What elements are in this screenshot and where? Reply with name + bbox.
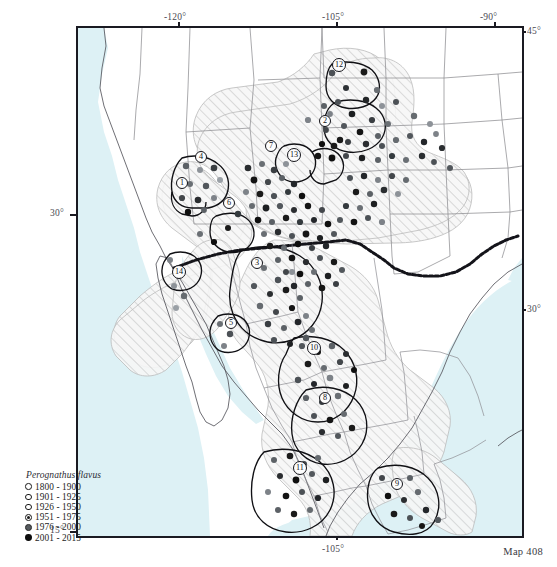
legend-rows: 1800 - 19001901 - 19251926 - 19501951 - … bbox=[22, 482, 172, 543]
region-marker-11: 11 bbox=[293, 461, 307, 475]
legend-item-label: 1951 - 1975 bbox=[35, 512, 81, 522]
legend-item-label: 1800 - 1900 bbox=[35, 482, 81, 492]
legend-symbol-icon bbox=[22, 534, 35, 541]
graticule-right-label-1: 30° bbox=[527, 304, 541, 314]
distribution-map-figure: -120°-105°-90°-105°30°15°45°30° bbox=[0, 0, 557, 567]
legend-item-label: 1901 - 1925 bbox=[35, 492, 81, 502]
graticule-bottom-label-0: -105° bbox=[322, 544, 344, 554]
region-marker-13: 13 bbox=[287, 148, 301, 162]
black-filled-circle-icon bbox=[25, 534, 32, 541]
graticule-left-label-0: 30° bbox=[50, 208, 64, 218]
legend-item: 1926 - 1950 bbox=[22, 502, 172, 512]
graticule-top-label-0: -120° bbox=[164, 12, 186, 22]
legend-item-label: 2001 - 2015 bbox=[35, 533, 81, 543]
legend-symbol-icon bbox=[22, 504, 35, 511]
graticule-top-label-1: -105° bbox=[322, 12, 344, 22]
dotted-circle-icon bbox=[25, 514, 32, 521]
open-circle-icon bbox=[25, 494, 32, 501]
legend: Perognathus flavus 1800 - 19001901 - 192… bbox=[22, 470, 172, 543]
region-marker-10: 10 bbox=[307, 341, 321, 355]
legend-item: 1951 - 1975 bbox=[22, 512, 172, 522]
region-marker-14: 14 bbox=[172, 265, 186, 279]
legend-item-label: 1976 - 2000 bbox=[35, 522, 81, 532]
map-credit: Map 408 bbox=[503, 546, 543, 557]
legend-symbol-icon bbox=[22, 494, 35, 501]
open-circle-icon bbox=[25, 504, 32, 511]
legend-symbol-icon bbox=[22, 524, 35, 531]
legend-symbol-icon bbox=[22, 483, 35, 490]
legend-item: 1976 - 2000 bbox=[22, 522, 172, 532]
graticule-right-label-0: 45° bbox=[527, 26, 541, 36]
map-canvas bbox=[78, 28, 522, 536]
legend-symbol-icon bbox=[22, 514, 35, 521]
gray-filled-circle-icon bbox=[25, 524, 32, 531]
open-circle-icon bbox=[25, 483, 32, 490]
legend-item-label: 1926 - 1950 bbox=[35, 502, 81, 512]
legend-item: 1901 - 1925 bbox=[22, 492, 172, 502]
region-marker-12: 12 bbox=[332, 58, 346, 72]
graticule-top-label-2: -90° bbox=[480, 12, 497, 22]
legend-item: 2001 - 2015 bbox=[22, 532, 172, 542]
legend-title: Perognathus flavus bbox=[22, 470, 172, 480]
legend-item: 1800 - 1900 bbox=[22, 482, 172, 492]
